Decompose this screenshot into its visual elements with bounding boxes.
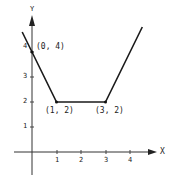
y-tick-label-1: 1: [23, 123, 27, 130]
annotation-0-4: (0, 4): [36, 43, 65, 51]
y-axis-arrow-icon: [29, 15, 35, 26]
y-tick-label-2: 2: [23, 98, 27, 105]
y-tick-label-3: 3: [23, 73, 27, 80]
y-tick-label-4: 4: [23, 43, 27, 50]
x-tick-label-2: 2: [79, 157, 83, 164]
y-axis-label: Y: [30, 6, 34, 13]
x-tick-label-1: 1: [55, 157, 59, 164]
x-axis-arrow-icon: [148, 149, 157, 155]
data-point: [31, 51, 34, 54]
function-line: [22, 27, 142, 102]
data-point: [55, 101, 58, 104]
data-points: [31, 51, 108, 104]
x-tick-label-3: 3: [104, 157, 108, 164]
data-point: [104, 101, 107, 104]
x-axis-label: X: [160, 148, 165, 156]
annotation-1-2: (1, 2): [45, 107, 74, 115]
chart-canvas: [0, 0, 173, 183]
x-tick-label-4: 4: [128, 157, 132, 164]
annotation-3-2: (3, 2): [95, 107, 124, 115]
